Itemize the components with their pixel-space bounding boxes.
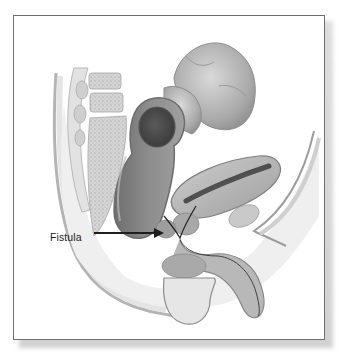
fistula-label: Fistula	[50, 231, 82, 243]
scrotum	[164, 278, 216, 324]
pelvis-illustration	[14, 16, 325, 340]
colon-lumen	[139, 107, 175, 147]
illustration-frame: Fistula	[13, 15, 325, 340]
bladder	[171, 156, 280, 218]
